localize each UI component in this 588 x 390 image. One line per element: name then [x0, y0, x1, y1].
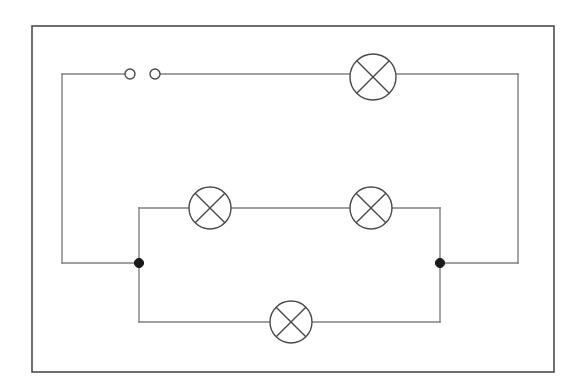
- lamp-bottom-symbol: [270, 301, 312, 343]
- circuit-diagram-figure: Electrical circuit diagram with switch a…: [0, 0, 588, 390]
- switch-terminal-left[interactable]: [125, 69, 135, 79]
- junction-left: [134, 258, 143, 267]
- junction-right: [435, 258, 444, 267]
- circuit-canvas: [0, 0, 588, 390]
- switch-terminal-right[interactable]: [150, 69, 160, 79]
- lamp-middle-left-symbol: [189, 187, 231, 229]
- lamp-top-symbol: [350, 54, 396, 100]
- lamp-middle-right-symbol: [350, 187, 392, 229]
